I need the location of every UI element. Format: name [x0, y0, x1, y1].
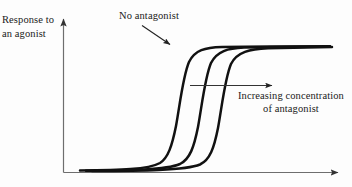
- no-antagonist-label: No antagonist: [119, 10, 179, 23]
- increasing-concentration-line-2: of antagonist: [238, 102, 344, 115]
- increasing-concentration-line-1: Increasing concentration: [238, 89, 344, 102]
- y-axis-label: Response to an agonist: [2, 13, 54, 41]
- antagonist-dose-response-figure: Response to an agonist No antagonist Inc…: [0, 0, 352, 187]
- y-axis-label-line-1: Response to: [2, 13, 54, 27]
- y-axis-label-line-2: an agonist: [2, 27, 54, 41]
- no-antagonist-arrow: [142, 26, 170, 45]
- increasing-concentration-label: Increasing concentration of antagonist: [238, 89, 344, 115]
